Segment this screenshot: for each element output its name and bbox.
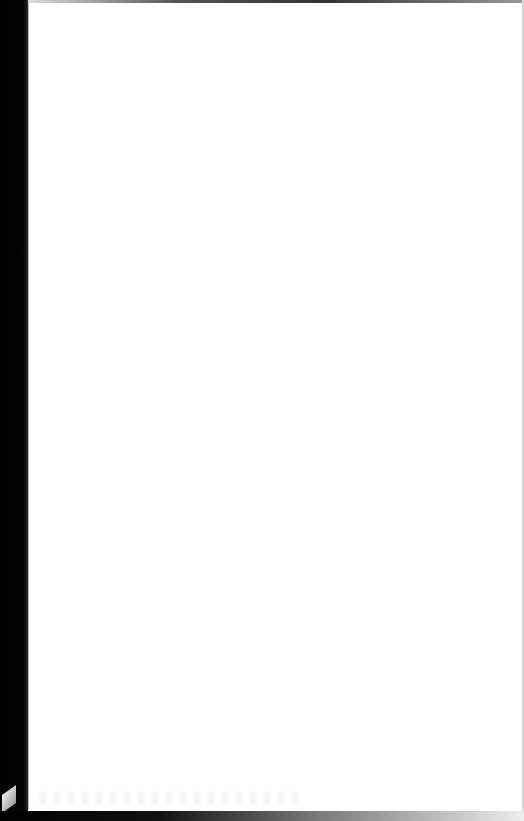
page-top-edge — [28, 0, 524, 3]
blank-page — [28, 2, 523, 810]
bleed-through-text — [40, 792, 300, 804]
page-bottom-edge — [0, 811, 524, 821]
page-binding-shadow — [0, 0, 28, 821]
